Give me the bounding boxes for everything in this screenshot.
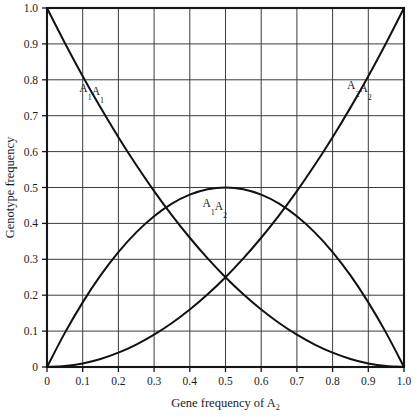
x-tick-label: 0.1: [76, 375, 91, 387]
y-tick-label: 0.8: [24, 74, 39, 86]
x-tick-label: 0.5: [218, 375, 233, 387]
y-tick-label: 0.9: [24, 38, 39, 50]
tick-marks: [42, 8, 404, 372]
y-tick-label: 0.6: [24, 146, 39, 158]
x-axis-title: Gene frequency of A2: [171, 396, 279, 412]
x-axis-tick-labels: 00.10.20.30.40.50.60.70.80.91.0: [44, 375, 411, 387]
x-axis-title-text: Gene frequency of A2: [171, 396, 279, 412]
genotype-frequency-chart: A1A1A1A2A2A2 00.10.20.30.40.50.60.70.80.…: [0, 0, 417, 417]
y-axis-tick-labels: 00.10.20.30.40.50.60.70.80.91.0: [24, 2, 39, 373]
y-axis-title: Genotype frequency: [3, 136, 17, 238]
y-tick-label: 0.4: [24, 217, 39, 229]
y-tick-label: 0.1: [24, 325, 39, 337]
hardy-weinberg-figure: A1A1A1A2A2A2 00.10.20.30.40.50.60.70.80.…: [0, 0, 417, 417]
y-tick-label: 0.5: [24, 182, 39, 194]
x-tick-label: 1.0: [397, 375, 412, 387]
y-tick-label: 0.7: [24, 110, 39, 122]
x-tick-label: 0.2: [111, 375, 126, 387]
x-tick-label: 0: [44, 375, 50, 387]
y-tick-label: 0.2: [24, 289, 39, 301]
x-tick-label: 0.6: [254, 375, 269, 387]
x-tick-label: 0.9: [361, 375, 376, 387]
x-tick-label: 0.3: [147, 375, 162, 387]
y-axis-title-text: Genotype frequency: [3, 136, 17, 238]
y-tick-label: 1.0: [24, 2, 39, 14]
y-tick-label: 0: [32, 361, 38, 373]
curve-label-2: A1A2: [202, 197, 227, 220]
x-tick-label: 0.8: [325, 375, 340, 387]
x-tick-label: 0.7: [290, 375, 305, 387]
x-tick-label: 0.4: [183, 375, 198, 387]
y-tick-label: 0.3: [24, 253, 39, 265]
